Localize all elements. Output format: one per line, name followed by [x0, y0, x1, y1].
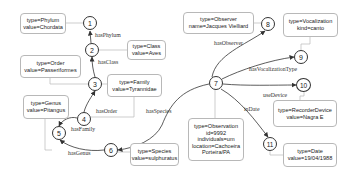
- observation-type: type=Observation: [194, 123, 238, 130]
- observer-type: type=Observer: [200, 16, 237, 23]
- species-box: type=Species value=sulphuratus: [130, 143, 179, 166]
- node-5: 5: [52, 126, 66, 140]
- node-10: 10: [296, 78, 311, 92]
- order-box: type=Order value=Passeriformes: [20, 55, 81, 78]
- genus-box: type=Genus value=Pitangus: [23, 95, 69, 119]
- edge-label-hasGenus: hasGenus: [68, 150, 91, 156]
- edge-label-useDevice: useDevice: [263, 92, 287, 98]
- family-type: type=Family: [119, 79, 149, 86]
- date-type: type=Date: [297, 148, 323, 155]
- order-value: value=Passeriformes: [24, 67, 76, 74]
- genus-value: value=Pitangus: [27, 107, 65, 114]
- observation-location: location=Cachoeira: [192, 143, 240, 150]
- node-8: 8: [261, 17, 275, 31]
- order-type: type=Order: [36, 60, 64, 67]
- node-3: 3: [88, 77, 102, 91]
- device-box: type=RecorderDevice value=Nagra E: [273, 100, 337, 127]
- phylum-type: type=Phylum: [27, 17, 60, 24]
- date-value: value=19/04/1988: [288, 155, 333, 162]
- observation-location-cont: Porteira/PA: [202, 149, 230, 156]
- observer-name: name=Jacques Vielliard: [189, 23, 248, 30]
- edge-label-hasPhylum: hasPhylum: [95, 32, 121, 38]
- device-value: value=Nagra E: [286, 114, 323, 121]
- phylum-value: value=Chordata: [23, 24, 63, 31]
- node-2: 2: [85, 43, 99, 57]
- node-4: 4: [77, 112, 91, 126]
- edge-label-hasSpecies: hasSpecies: [146, 108, 171, 114]
- class-type: type=Class: [133, 43, 161, 50]
- edge-label-hasObserver: hasObserver: [214, 40, 243, 46]
- edge-label-hasFamily: hasFamily: [71, 126, 95, 132]
- edge-label-inDate: inDate: [244, 106, 259, 112]
- date-box: type=Date value=19/04/1988: [283, 143, 337, 167]
- vocalization-box: type=Vocalization kind=canto: [283, 13, 338, 37]
- observation-box: type=Observation id=9992 individuals=um …: [188, 118, 244, 161]
- species-value: value=sulphuratus: [132, 155, 178, 162]
- box-connectors: [45, 23, 310, 155]
- family-box: type=Family value=Tyrannidae: [107, 74, 162, 97]
- class-value: value=Aves: [132, 50, 161, 57]
- node-7: 7: [209, 76, 223, 90]
- observer-box: type=Observer name=Jacques Vielliard: [183, 12, 254, 34]
- phylum-box: type=Phylum value=Chordata: [20, 13, 66, 34]
- edge-label-hasOrder: hasOrder: [96, 108, 117, 114]
- species-type: type=Species: [138, 148, 172, 155]
- node-1: 1: [83, 16, 97, 30]
- class-box: type=Class value=Aves: [127, 40, 166, 60]
- observation-id: id=9992: [206, 130, 226, 137]
- family-value: value=Tyrannidae: [112, 86, 156, 93]
- device-type: type=RecorderDevice: [278, 107, 332, 114]
- vocalization-type: type=Vocalization: [289, 18, 333, 25]
- edge-label-hasClass: hasClass: [98, 59, 118, 65]
- vocalization-kind: kind=canto: [297, 25, 324, 32]
- edge-label-hasVocalizationType: hasVocalizationType: [249, 66, 297, 72]
- node-11: 11: [263, 137, 277, 151]
- observation-individuals: individuals=um: [197, 136, 234, 143]
- node-9: 9: [294, 50, 308, 64]
- node-6: 6: [104, 143, 118, 157]
- genus-type: type=Genus: [31, 100, 61, 107]
